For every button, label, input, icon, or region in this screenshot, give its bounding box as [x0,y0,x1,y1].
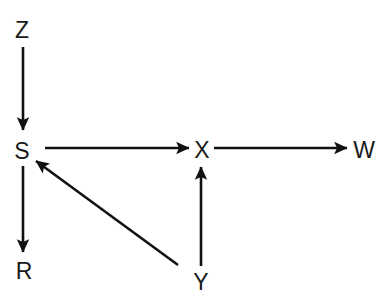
graph-edges-layer [0,0,386,304]
dag-diagram: Z S R X W Y [0,0,386,304]
edge-y-to-s [36,161,178,265]
node-s: S [14,140,29,163]
node-x: X [194,139,209,162]
node-y: Y [193,271,208,294]
node-r: R [16,260,33,283]
node-z: Z [15,19,29,42]
node-w: W [353,139,375,162]
